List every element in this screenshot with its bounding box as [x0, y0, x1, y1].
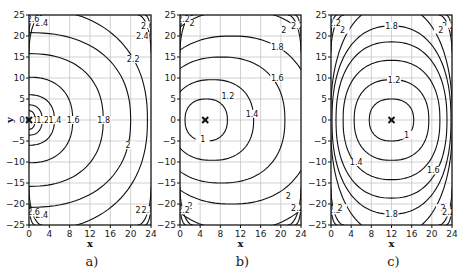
contour-label: 1.4: [350, 158, 363, 167]
contour-label: 2.2: [127, 55, 140, 64]
x-tick-label: 16: [406, 229, 418, 239]
x-tick-label: 24: [446, 229, 458, 239]
x-tick-label: 8: [67, 229, 73, 239]
contour-label: 2: [281, 26, 286, 35]
contour-label: 2: [338, 204, 343, 213]
y-tick-label: 10: [316, 73, 328, 83]
y-tick-label: −25: [6, 220, 25, 230]
y-tick-label: −5: [12, 136, 25, 146]
x-tick-label: 4: [197, 229, 203, 239]
y-tick-label: −5: [163, 136, 176, 146]
contour-label: 1.8: [271, 43, 284, 52]
panel-b: 11.21.41.61.822.222.222.222.204812162024…: [143, 10, 335, 269]
y-tick-label: −5: [314, 136, 327, 146]
y-tick-label: −15: [157, 178, 176, 188]
contour-label: 1.8: [385, 22, 398, 31]
y-tick-label: 0: [321, 115, 327, 125]
contour-label: 2.2: [328, 19, 341, 28]
x-tick-label: 8: [368, 229, 374, 239]
panel-c: 11.21.41.61.81.822.22.222.2222.204812162…: [308, 5, 458, 270]
x-tick-label: 4: [348, 229, 354, 239]
y-tick-label: 25: [165, 10, 176, 20]
y-tick-label: 10: [165, 73, 177, 83]
y-tick-label: −10: [6, 157, 25, 167]
contour-label: 1.2: [222, 92, 235, 101]
x-tick-label: 24: [295, 229, 307, 239]
y-tick-label: 0: [170, 115, 176, 125]
y-tick-label: −10: [308, 157, 327, 167]
y-tick-label: 25: [14, 10, 25, 20]
x-axis-label: x: [87, 238, 94, 249]
contour-label: 1: [200, 135, 205, 144]
x-tick-label: 24: [145, 229, 157, 239]
contour-label: 1.8: [385, 210, 398, 219]
panel-caption: b): [236, 254, 249, 269]
y-tick-label: 15: [14, 52, 25, 62]
y-tick-label: 20: [316, 31, 328, 41]
y-axis-label: y: [4, 116, 15, 124]
contour-label: 2.2: [291, 22, 304, 31]
x-tick-label: 4: [46, 229, 52, 239]
contour-label: 1.6: [271, 74, 284, 83]
x-tick-label: 0: [26, 229, 32, 239]
contour-label: 1.6: [67, 116, 80, 125]
contour-label: 2: [126, 141, 131, 150]
y-tick-label: −20: [308, 199, 327, 209]
x-tick-label: 0: [177, 229, 183, 239]
contour-label: 1.4: [49, 116, 62, 125]
contour-label: 2.4: [136, 32, 149, 41]
contour-figure: 11.21.41.61.822.22.42.62.42.62.42.62.42.…: [0, 0, 466, 270]
y-tick-label: 20: [14, 31, 26, 41]
y-tick-label: 10: [14, 73, 26, 83]
contour-label: 2.2: [442, 208, 455, 217]
y-tick-label: −20: [6, 199, 25, 209]
panel-caption: a): [86, 254, 99, 269]
x-tick-label: 8: [217, 229, 223, 239]
y-tick-label: 0: [19, 115, 25, 125]
y-tick-label: −15: [6, 178, 25, 188]
y-tick-label: 15: [316, 52, 327, 62]
x-tick-label: 20: [275, 229, 287, 239]
x-axis-label: x: [389, 238, 396, 249]
contour-label: 1.4: [246, 110, 259, 119]
contour-label: 1.2: [36, 116, 49, 125]
y-tick-label: −25: [157, 220, 176, 230]
contour-label: 1.8: [97, 116, 110, 125]
y-tick-label: 25: [316, 10, 327, 20]
contour-label: 2.2: [291, 204, 304, 213]
panel-caption: c): [387, 254, 399, 269]
x-axis-label: x: [238, 238, 245, 249]
y-tick-label: −15: [308, 178, 327, 188]
contour-label: 2.8: [142, 206, 155, 215]
y-tick-label: −10: [157, 157, 176, 167]
x-tick-label: 16: [105, 229, 117, 239]
y-tick-label: −25: [308, 220, 327, 230]
x-tick-label: 20: [426, 229, 438, 239]
y-tick-label: −20: [157, 199, 176, 209]
y-tick-label: 20: [165, 31, 177, 41]
contour-label: 2.2: [177, 15, 190, 24]
contour-label: 2.6: [141, 22, 154, 31]
contour-label: 2: [286, 192, 291, 201]
y-tick-label: 15: [165, 52, 176, 62]
y-tick-label: 5: [19, 94, 25, 104]
contour-label: 1.6: [427, 166, 440, 175]
x-tick-label: 0: [328, 229, 334, 239]
y-tick-label: 5: [170, 94, 176, 104]
x-tick-label: 20: [125, 229, 137, 239]
contour-label: 1.2: [388, 76, 401, 85]
contour-label: 2: [438, 26, 443, 35]
x-tick-label: 16: [255, 229, 267, 239]
panel-a: 11.21.41.61.822.22.42.62.42.62.42.62.42.…: [0, 9, 157, 269]
contour-label: 1: [404, 131, 409, 140]
y-tick-label: 5: [321, 94, 327, 104]
contour-label: 2.2: [177, 206, 190, 215]
